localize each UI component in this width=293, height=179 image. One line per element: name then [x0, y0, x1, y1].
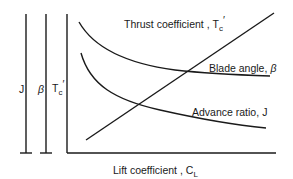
j-scale-label: J [19, 83, 24, 95]
thrust-coefficient-line [86, 13, 274, 140]
blade-angle-label: Blade angle,β [209, 62, 276, 74]
x-axis-label: Lift coefficient ,CL [113, 164, 198, 179]
advance-ratio-label: Advance ratio,J [192, 106, 267, 118]
beta-scale-label: β [37, 83, 44, 95]
thrust-coefficient-label: Thrust coefficient ,Tc′ [124, 14, 225, 33]
tc-scale-label: Tc′ [52, 78, 64, 97]
propeller-diagram: J β Tc′ Thrust coefficient ,Tc′ Blade an… [0, 0, 293, 179]
